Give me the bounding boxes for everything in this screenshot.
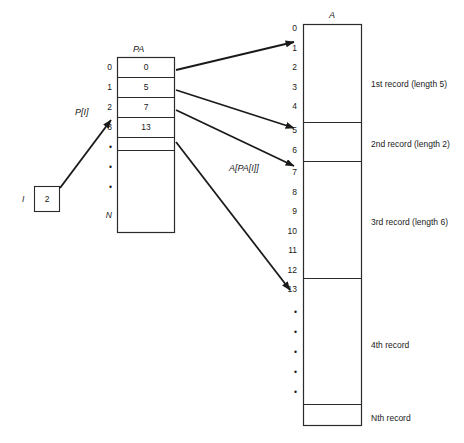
deref-arrow-0 — [176, 42, 294, 70]
variable-i-value: 2 — [34, 195, 60, 204]
pa-array-title: PA — [133, 45, 144, 54]
pa-cell-value-3: 13 — [117, 123, 175, 132]
a-index-10: 10 — [281, 227, 297, 236]
a-index-6: 6 — [281, 146, 297, 155]
a-record-label-2: 2nd record (length 2) — [371, 140, 450, 149]
a-index-9: 9 — [281, 207, 297, 216]
pa-index-dot: • — [100, 183, 112, 192]
a-index-8: 8 — [281, 188, 297, 197]
deref-arrow-7 — [176, 110, 294, 166]
pa-cell-value-2: 7 — [117, 103, 175, 112]
a-index-3: 3 — [281, 83, 297, 92]
a-index-1: 1 — [281, 44, 297, 53]
a-index-7: 7 — [281, 168, 297, 177]
pa-cell-value-0: 0 — [117, 63, 175, 72]
deref-arrow-5 — [176, 90, 294, 128]
a-record-label-3: 3rd record (length 6) — [371, 218, 448, 227]
variable-i-label: I — [22, 195, 24, 204]
a-index-2: 2 — [281, 63, 297, 72]
pa-index-dot: • — [100, 143, 112, 152]
a-record-label-4: 4th record — [371, 341, 409, 350]
a-array-box — [304, 25, 362, 426]
deref-label-a-of-pa-of-i: A[PA[I]] — [229, 164, 259, 173]
pa-index-0: 0 — [100, 63, 112, 72]
pa-index-n: N — [100, 211, 112, 220]
a-index-dot: • — [281, 368, 297, 377]
pa-cell-value-1: 5 — [117, 83, 175, 92]
pointer-label-p-of-i: P[I] — [75, 108, 89, 117]
pa-index-dot: • — [100, 163, 112, 172]
a-index-dot: • — [281, 348, 297, 357]
a-record-label-1: 1st record (length 5) — [371, 80, 447, 89]
a-index-12: 12 — [281, 266, 297, 275]
a-index-13: 13 — [281, 285, 297, 294]
a-index-0: 0 — [281, 24, 297, 33]
pa-index-2: 2 — [100, 103, 112, 112]
a-index-dot: • — [281, 388, 297, 397]
pointer-array-diagram: PA 0 1 2 3 • • • N 0 5 7 13 I 2 P[I] A[P… — [0, 0, 464, 443]
a-index-4: 4 — [281, 102, 297, 111]
pa-index-1: 1 — [100, 83, 112, 92]
a-index-5: 5 — [281, 126, 297, 135]
a-index-dot: • — [281, 308, 297, 317]
a-index-11: 11 — [281, 246, 297, 255]
a-array-title: A — [329, 11, 335, 20]
a-index-dot: • — [281, 328, 297, 337]
a-record-label-n: Nth record — [371, 414, 411, 423]
pa-index-3: 3 — [100, 123, 112, 132]
